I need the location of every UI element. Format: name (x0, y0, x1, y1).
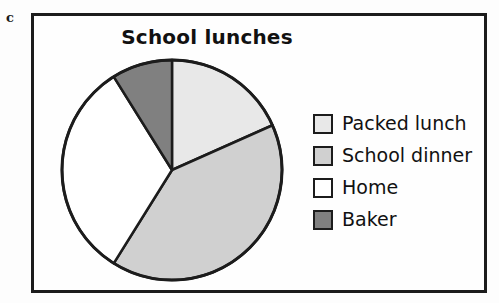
chart-title: School lunches (92, 25, 322, 49)
legend-label-home: Home (342, 178, 398, 197)
chart-frame: School lunches Packed lunch School dinne… (31, 13, 487, 293)
legend-item-school-dinner: School dinner (313, 142, 483, 169)
pie-svg (60, 58, 284, 282)
legend-label-school-dinner: School dinner (342, 146, 472, 165)
panel-letter: c (6, 11, 14, 24)
legend-swatch-baker (313, 210, 333, 230)
legend-item-home: Home (313, 174, 483, 201)
chart-legend: Packed lunch School dinner Home Baker (313, 110, 483, 233)
pie-chart (60, 58, 284, 282)
legend-swatch-packed-lunch (313, 114, 333, 134)
legend-item-packed-lunch: Packed lunch (313, 110, 483, 137)
legend-item-baker: Baker (313, 206, 483, 233)
figure-root: c School lunches Packed lunch School din… (0, 0, 499, 303)
legend-swatch-school-dinner (313, 146, 333, 166)
legend-label-baker: Baker (342, 210, 397, 229)
legend-swatch-home (313, 178, 333, 198)
legend-label-packed-lunch: Packed lunch (342, 114, 467, 133)
